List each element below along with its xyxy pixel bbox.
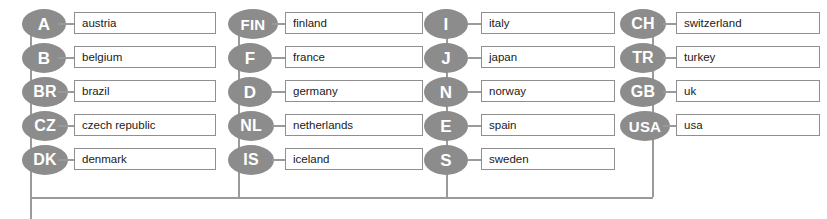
tree-node-row: Ssweden [424,145,615,175]
node-label-box-iceland[interactable]: iceland [285,148,423,170]
tree-diagram: AaustriaBbelgiumBRbrazilCZczech republic… [0,0,827,219]
node-label-box-france[interactable]: france [285,46,423,68]
node-stub-line [58,57,74,59]
node-stub-line [272,23,285,25]
node-code-ch[interactable]: CH [620,9,666,39]
tree-node-row: Bbelgium [22,43,216,73]
node-stub-line [663,125,676,127]
node-stub-line [468,23,481,25]
node-label-box-turkey[interactable]: turkey [676,46,820,68]
node-code-tr[interactable]: TR [620,43,666,73]
node-stub-line [58,125,74,127]
node-stub-line [58,159,74,161]
node-label-box-sweden[interactable]: sweden [481,148,615,170]
node-code-fin[interactable]: FIN [228,9,278,39]
node-label-box-spain[interactable]: spain [481,114,615,136]
tree-node-row: Iitaly [424,9,615,39]
node-stub-line [58,23,74,25]
node-label-box-belgium[interactable]: belgium [74,46,216,68]
tree-node-row: CZczech republic [22,111,216,141]
tree-node-row: Espain [424,111,615,141]
node-code-i[interactable]: I [424,9,468,39]
node-label-box-switzerland[interactable]: switzerland [676,12,820,34]
node-label-box-norway[interactable]: norway [481,80,615,102]
tree-node-row: FINfinland [228,9,423,39]
tree-node-row: TRturkey [620,43,820,73]
node-stub-line [272,159,285,161]
node-label-box-denmark[interactable]: denmark [74,148,216,170]
tree-node-row: BRbrazil [22,77,216,107]
node-stub-line [468,57,481,59]
node-stub-line [663,23,676,25]
node-stub-line [468,91,481,93]
node-label-box-germany[interactable]: germany [285,80,423,102]
node-stub-line [272,91,285,93]
tree-node-row: Nnorway [424,77,615,107]
tree-node-row: CHswitzerland [620,9,820,39]
node-code-gb[interactable]: GB [620,77,666,107]
node-code-j[interactable]: J [424,43,468,73]
node-label-box-uk[interactable]: uk [676,80,820,102]
tree-node-row: NLnetherlands [228,111,423,141]
tree-node-row: GBuk [620,77,820,107]
tree-node-row: Dgermany [228,77,423,107]
node-stub-line [272,57,285,59]
node-label-box-finland[interactable]: finland [285,12,423,34]
tree-node-row: ISiceland [228,145,423,175]
node-code-nl[interactable]: NL [228,111,274,141]
node-label-box-italy[interactable]: italy [481,12,615,34]
node-code-n[interactable]: N [424,77,468,107]
node-label-box-japan[interactable]: japan [481,46,615,68]
node-label-box-czech-republic[interactable]: czech republic [74,114,216,136]
horizontal-bus-line [30,197,653,199]
node-code-d[interactable]: D [228,77,272,107]
node-label-box-netherlands[interactable]: netherlands [285,114,423,136]
node-stub-line [663,91,676,93]
tree-node-row: DKdenmark [22,145,216,175]
node-code-s[interactable]: S [424,145,468,175]
tree-node-row: USAusa [620,111,820,141]
node-code-f[interactable]: F [228,43,272,73]
tree-node-row: Jjapan [424,43,615,73]
node-stub-line [58,91,74,93]
node-label-box-brazil[interactable]: brazil [74,80,216,102]
root-trunk-line [30,197,32,219]
node-stub-line [663,57,676,59]
tree-node-row: Aaustria [22,9,216,39]
node-stub-line [468,125,481,127]
node-label-box-usa[interactable]: usa [676,114,820,136]
node-stub-line [468,159,481,161]
node-code-is[interactable]: IS [228,145,274,175]
node-label-box-austria[interactable]: austria [74,12,216,34]
tree-node-row: Ffrance [228,43,423,73]
node-code-e[interactable]: E [424,111,468,141]
node-stub-line [272,125,285,127]
